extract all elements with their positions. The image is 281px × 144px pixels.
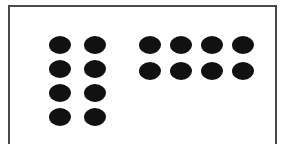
- dot: [84, 108, 106, 126]
- dot: [170, 36, 192, 54]
- dot: [84, 60, 106, 78]
- dot: [139, 36, 161, 54]
- figure-root: [0, 0, 281, 144]
- dot: [84, 84, 106, 102]
- dot: [49, 84, 71, 102]
- dot-row: [49, 60, 119, 78]
- dot: [232, 62, 254, 80]
- dot-group-right: [139, 36, 263, 88]
- dot-row: [49, 84, 119, 102]
- dot-group-left: [49, 36, 119, 132]
- dot: [84, 36, 106, 54]
- dot-row: [49, 108, 119, 126]
- dot: [139, 62, 161, 80]
- dot: [49, 60, 71, 78]
- figure-panel-border: [8, 5, 277, 144]
- dot: [201, 62, 223, 80]
- dot-row: [49, 36, 119, 54]
- dot: [201, 36, 223, 54]
- dot-row: [139, 36, 263, 54]
- dot: [232, 36, 254, 54]
- dot: [49, 36, 71, 54]
- dot: [170, 62, 192, 80]
- dot-row: [139, 62, 263, 80]
- dot: [49, 108, 71, 126]
